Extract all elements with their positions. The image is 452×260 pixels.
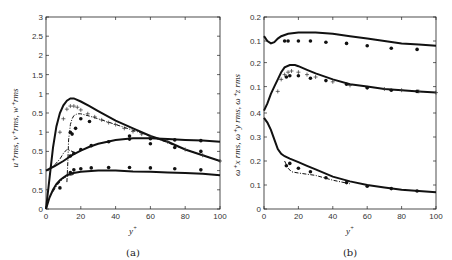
dot-marker xyxy=(79,117,83,121)
x-tick-label: 80 xyxy=(181,212,190,221)
plus-marker xyxy=(279,77,283,81)
figure: 00.510.510.511.522.53 020406080100 y+ u⁺… xyxy=(0,0,452,260)
x-tick-label: 60 xyxy=(146,212,155,221)
dot-marker xyxy=(286,39,290,43)
plus-marker xyxy=(79,108,83,112)
plus-marker xyxy=(382,87,386,91)
plus-marker xyxy=(75,105,79,109)
x-tick-label: 0 xyxy=(44,212,49,221)
dot-marker xyxy=(309,170,313,174)
dot-marker xyxy=(389,46,393,50)
y-tick-label: 0.4 xyxy=(250,109,262,118)
plus-marker xyxy=(400,88,404,92)
plus-marker xyxy=(305,73,309,77)
y-tick-label: 0.3 xyxy=(250,133,262,142)
panel-a: 00.510.510.511.522.53 020406080100 y+ u⁺… xyxy=(10,13,227,258)
series-line xyxy=(264,33,436,46)
y-tick-label: 2.5 xyxy=(32,32,44,41)
y-tick-label: 0.5 xyxy=(32,147,44,156)
dot-marker xyxy=(72,152,76,156)
dot-marker xyxy=(415,48,419,52)
x-tick-label: 100 xyxy=(213,212,227,221)
dot-marker xyxy=(173,138,177,142)
dot-marker xyxy=(173,167,177,171)
y-tick-label: 0.1 xyxy=(250,37,262,46)
plus-marker xyxy=(107,121,111,125)
x-axis-label-b: y+ xyxy=(345,225,354,236)
dot-marker xyxy=(199,139,203,143)
series-line xyxy=(264,118,436,192)
dot-marker xyxy=(58,186,62,190)
dot-marker xyxy=(389,187,393,191)
y-tick-label: 0.2 xyxy=(250,13,262,22)
plus-marker xyxy=(65,107,69,111)
series-group-a xyxy=(46,98,222,209)
y-axis-label-a: u⁺rms, v⁺rms, w⁺rms xyxy=(10,88,20,168)
x-tick-label: 40 xyxy=(328,212,337,221)
plot-frame-b xyxy=(264,17,436,209)
dot-marker xyxy=(297,39,301,43)
dot-marker xyxy=(297,166,301,170)
dot-marker xyxy=(415,189,419,193)
dot-marker xyxy=(285,164,289,168)
caption-b: (b) xyxy=(343,247,357,258)
plus-marker xyxy=(296,70,300,74)
dot-marker xyxy=(69,171,73,175)
dot-marker xyxy=(389,88,393,92)
y-tick-label: 0.1 xyxy=(250,181,262,190)
dot-marker xyxy=(89,166,93,170)
dot-marker xyxy=(149,142,153,146)
dot-marker xyxy=(89,144,93,148)
x-tick-label: 60 xyxy=(363,212,372,221)
y-tick-label: 0.5 xyxy=(32,186,44,195)
x-axis-ticks-a: 020406080100 xyxy=(44,17,227,221)
dot-marker xyxy=(365,44,369,48)
dot-marker xyxy=(365,184,369,188)
series-group-b xyxy=(264,33,438,193)
dot-marker xyxy=(309,39,313,43)
dot-marker xyxy=(365,86,369,90)
plus-marker xyxy=(276,89,280,93)
dot-marker xyxy=(70,132,74,136)
panel-b: 00.10.20.30.40.10.20.10.2 020406080100 y… xyxy=(232,13,443,258)
dot-marker xyxy=(324,79,328,83)
y-tick-label: 1 xyxy=(39,167,44,176)
x-tick-label: 0 xyxy=(262,212,267,221)
plus-marker xyxy=(61,117,65,121)
dot-marker xyxy=(149,137,153,141)
caption-a: (a) xyxy=(126,247,140,258)
plot-frame-a xyxy=(46,17,220,209)
dot-marker xyxy=(324,40,328,44)
dot-marker xyxy=(79,167,83,171)
plus-marker xyxy=(122,126,126,130)
x-tick-label: 20 xyxy=(76,212,85,221)
dot-marker xyxy=(74,127,78,131)
y-tick-label: 1 xyxy=(39,90,44,99)
dot-marker xyxy=(415,90,419,94)
y-axis-label-b: ω⁺x rms, ω⁺y rms, ω⁺z rms xyxy=(232,74,242,176)
dot-marker xyxy=(128,137,132,141)
y-tick-label: 0.5 xyxy=(32,109,44,118)
y-tick-label: 2 xyxy=(39,51,44,60)
dot-marker xyxy=(309,76,313,80)
y-tick-label: 1.5 xyxy=(32,71,44,80)
dot-marker xyxy=(199,150,203,154)
dot-marker xyxy=(288,74,292,78)
dot-marker xyxy=(72,168,76,172)
y-tick-label: 3 xyxy=(39,13,44,22)
dot-marker xyxy=(345,82,349,86)
series-line xyxy=(46,138,220,170)
plus-marker xyxy=(58,130,62,134)
dot-marker xyxy=(79,148,83,152)
plus-marker xyxy=(290,69,294,73)
series-line xyxy=(46,171,220,209)
x-tick-label: 20 xyxy=(294,212,303,221)
dot-marker xyxy=(288,162,292,166)
plus-marker xyxy=(72,104,76,108)
dot-marker xyxy=(324,176,328,180)
dot-marker xyxy=(107,166,111,170)
series-line xyxy=(285,161,350,184)
y-tick-label: 1 xyxy=(39,128,44,137)
y-tick-label: 0.1 xyxy=(250,83,262,92)
dot-marker xyxy=(297,74,301,78)
